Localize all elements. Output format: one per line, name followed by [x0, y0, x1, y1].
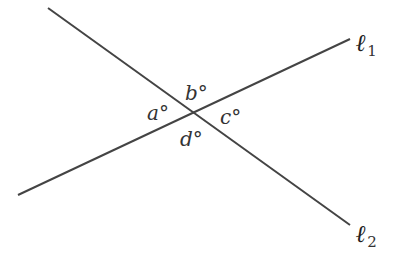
line-l2-subscript: 2 — [367, 233, 377, 251]
line-label-l2: ℓ2 — [356, 219, 377, 251]
diagram-canvas: a° b° c° d° ℓ1 ℓ2 — [0, 0, 393, 276]
angle-label-b: b° — [185, 81, 208, 105]
angle-label-c: c° — [220, 105, 241, 129]
line-label-l1: ℓ1 — [356, 28, 377, 60]
angle-label-a: a° — [147, 101, 169, 125]
line-l2 — [48, 8, 350, 225]
diagram-svg: a° b° c° d° ℓ1 ℓ2 — [0, 0, 393, 276]
line-l1-subscript: 1 — [367, 42, 377, 60]
line-l2-symbol: ℓ — [356, 219, 366, 248]
angle-label-d: d° — [180, 127, 203, 151]
line-l1-symbol: ℓ — [356, 28, 366, 57]
line-l1 — [18, 39, 350, 195]
